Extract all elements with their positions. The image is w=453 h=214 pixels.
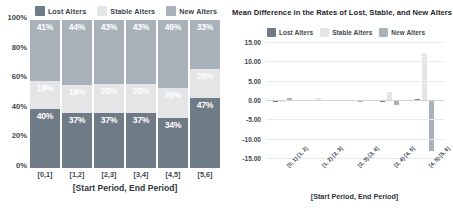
legend-swatch-lost	[35, 6, 45, 16]
bar-new-alters[interactable]	[429, 100, 434, 151]
bar-segment-label: 44%	[69, 20, 86, 32]
legend-label-stable: Stable Alters	[332, 29, 372, 36]
bar-segment-label: 37%	[133, 113, 150, 125]
left-chart-y-axis: 0%20%40%60%80%100%	[0, 14, 30, 168]
legend-label-new: New Alters	[179, 7, 217, 16]
bar-segment-lost[interactable]: 37%	[62, 113, 92, 168]
y-tick-label: -15.00	[242, 155, 261, 162]
legend-item-stable: Stable Alters	[97, 6, 155, 16]
stacked-bar-column[interactable]: 43%20%37%	[126, 20, 156, 168]
grouped-bar-chart: Mean Difference in the Rates of Lost, St…	[226, 0, 453, 214]
x-tick-label-wrap: [2, 3]-[3, 4]	[337, 160, 373, 190]
stacked-bar-column[interactable]: 46%20%34%	[158, 20, 188, 168]
gridline	[266, 139, 444, 140]
left-chart-legend: Lost Alters Stable Alters New Alters	[28, 5, 224, 17]
legend-swatch-stable	[97, 6, 107, 16]
bar-segment-stable[interactable]: 19%	[30, 81, 60, 109]
bar-segment-label: 37%	[69, 113, 86, 125]
bar-segment-stable[interactable]: 20%	[158, 88, 188, 118]
x-tick-label-wrap: [3, 4]-[4, 5]	[373, 160, 409, 190]
bar-segment-label: 20%	[133, 84, 150, 96]
y-tick-label: -10.00	[242, 135, 261, 142]
bar-segment-label: 20%	[197, 69, 214, 81]
y-tick-label: 60%	[12, 72, 27, 81]
stacked-bar-chart: Lost Alters Stable Alters New Alters 0%2…	[0, 0, 226, 214]
stacked-bar-column[interactable]: 41%19%40%	[30, 20, 60, 168]
bar-segment-stable[interactable]: 20%	[190, 69, 220, 99]
stacked-bar-columns: 41%19%40%44%19%37%43%20%37%43%20%37%46%2…	[30, 20, 220, 168]
bar-segment-label: 20%	[165, 88, 182, 100]
legend-swatch-new	[379, 28, 388, 37]
y-tick-label: 0%	[16, 161, 27, 170]
bar-segment-label: 46%	[165, 20, 182, 32]
gridline	[266, 81, 444, 82]
y-tick-label: 20%	[12, 131, 27, 140]
bar-segment-stable[interactable]: 19%	[62, 85, 92, 113]
bar-segment-label: 19%	[69, 85, 86, 97]
left-chart-x-tick-labels: [0,1][1,2][2,3][3,4][4,5][5,6]	[30, 170, 220, 182]
right-chart-legend: Lost Alters Stable Alters New Alters	[271, 27, 421, 38]
charts-page: Lost Alters Stable Alters New Alters 0%2…	[0, 0, 453, 214]
legend-item-new: New Alters	[166, 6, 217, 16]
stacked-bar-column[interactable]: 44%19%37%	[62, 20, 92, 168]
stacked-bar-column[interactable]: 33%20%47%	[190, 20, 220, 168]
bar-segment-label: 43%	[101, 20, 118, 32]
x-tick-label-wrap: [1, 2]-[2, 3]	[302, 160, 338, 190]
bar-segment-label: 47%	[197, 98, 214, 110]
bar-segment-new[interactable]: 43%	[94, 20, 124, 84]
legend-item-lost: Lost Alters	[35, 6, 86, 16]
x-tick-label-wrap: [4, 5]-[5, 6]	[408, 160, 444, 190]
legend-label-new: New Alters	[391, 29, 425, 36]
x-tick-label: [0,1]	[30, 170, 60, 182]
bar-segment-new[interactable]: 41%	[30, 20, 60, 81]
bar-segment-lost[interactable]: 34%	[158, 118, 188, 168]
x-tick-label: [5,6]	[190, 170, 220, 182]
y-tick-label: -5.00	[246, 116, 261, 123]
legend-swatch-lost	[267, 28, 276, 37]
right-chart-x-tick-labels: [0, 1]-[1, 2][1, 2]-[2, 3][2, 3]-[3, 4][…	[266, 160, 444, 190]
legend-item-new: New Alters	[379, 28, 425, 37]
gridline	[266, 42, 444, 43]
y-tick-label: 10.00	[244, 58, 261, 65]
bar-segment-label: 33%	[197, 20, 214, 32]
left-chart-x-axis-title: [Start Period, End Period]	[30, 183, 220, 193]
bar-segment-stable[interactable]: 20%	[126, 84, 156, 114]
right-chart-title: Mean Difference in the Rates of Lost, St…	[232, 8, 453, 17]
x-tick-label: [4,5]	[158, 170, 188, 182]
legend-label-lost: Lost Alters	[279, 29, 313, 36]
bar-segment-label: 20%	[101, 84, 118, 96]
y-tick-label: 100%	[8, 13, 27, 22]
y-tick-label: 80%	[12, 42, 27, 51]
legend-swatch-stable	[320, 28, 329, 37]
bar-segment-lost[interactable]: 47%	[190, 98, 220, 168]
bar-stable-alters[interactable]	[387, 92, 392, 100]
stacked-bar-column[interactable]: 43%20%37%	[94, 20, 124, 168]
bar-segment-lost[interactable]: 37%	[94, 113, 124, 168]
legend-label-lost: Lost Alters	[48, 7, 86, 16]
bar-stable-alters[interactable]	[422, 53, 427, 100]
legend-item-stable: Stable Alters	[320, 28, 372, 37]
bar-segment-lost[interactable]: 37%	[126, 113, 156, 168]
legend-swatch-new	[166, 6, 176, 16]
y-tick-label: 15.00	[244, 39, 261, 46]
legend-item-lost: Lost Alters	[267, 28, 313, 37]
bar-segment-lost[interactable]: 40%	[30, 109, 60, 168]
bar-segment-label: 19%	[37, 81, 54, 93]
gridline	[266, 61, 444, 62]
bar-segment-new[interactable]: 43%	[126, 20, 156, 84]
gridline	[266, 119, 444, 120]
y-tick-label: 0.00	[248, 97, 261, 104]
bar-segment-new[interactable]: 44%	[62, 20, 92, 85]
x-tick-label: [1,2]	[62, 170, 92, 182]
bar-segment-new[interactable]: 46%	[158, 20, 188, 88]
bar-segment-stable[interactable]: 20%	[94, 84, 124, 114]
right-chart-plot-area	[266, 42, 444, 158]
bar-segment-label: 43%	[133, 20, 150, 32]
bar-segment-new[interactable]: 33%	[190, 20, 220, 69]
bar-segment-label: 37%	[101, 113, 118, 125]
right-chart-x-axis-title: [Start Period, End Period]	[256, 192, 453, 201]
bar-segment-label: 40%	[37, 109, 54, 121]
left-chart-plot-area: 41%19%40%44%19%37%43%20%37%43%20%37%46%2…	[30, 20, 220, 168]
y-tick-label: 5.00	[248, 77, 261, 84]
x-tick-label-wrap: [0, 1]-[1, 2]	[266, 160, 302, 190]
